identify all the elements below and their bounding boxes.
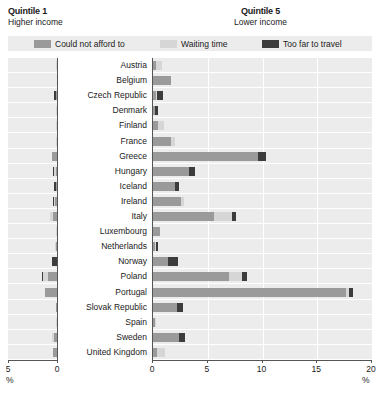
left-axis-line [8, 360, 57, 361]
bar-segment-could-not-afford [56, 91, 57, 100]
bar-segment-too-far [179, 333, 184, 342]
quintile1-header: Quintile 1 Higher income [8, 6, 63, 28]
country-label: Netherlands [59, 239, 147, 254]
left-axis-unit: % [6, 375, 14, 386]
bar-segment-could-not-afford [56, 182, 57, 191]
bar-segment-waiting-time [50, 212, 53, 221]
bar-segment-too-far [52, 257, 57, 266]
chart-row [153, 179, 372, 194]
bar-segment-could-not-afford [52, 152, 57, 161]
bar-segment-could-not-afford [56, 167, 57, 176]
bar-segment-too-far [242, 272, 247, 281]
chart-row [153, 103, 372, 118]
country-label: Greece [59, 149, 147, 164]
chart-row [153, 149, 372, 164]
bar-segment-could-not-afford [153, 76, 171, 85]
bar-segment-waiting-time [54, 167, 55, 176]
bar-segment-waiting-time [155, 318, 156, 327]
bar-segment-waiting-time [54, 197, 55, 206]
country-label: Norway [59, 254, 147, 269]
chart-row [153, 345, 372, 360]
right-axis-tick-label: 0 [140, 364, 164, 375]
axis-tick [8, 360, 9, 363]
bar-segment-waiting-time [214, 212, 232, 221]
bar-segment-waiting-time [43, 272, 48, 281]
country-label: France [59, 134, 147, 149]
quintile5-title: Quintile 5 [148, 6, 373, 17]
bar-segment-too-far [232, 212, 236, 221]
bar-segment-could-not-afford [153, 137, 171, 146]
bar-segment-too-far [175, 182, 179, 191]
right-axis-tick-label: 20 [359, 364, 380, 375]
bar-segment-waiting-time [56, 106, 57, 115]
bar-segment-too-far [42, 272, 43, 281]
bar-segment-waiting-time [56, 121, 57, 130]
bar-segment-could-not-afford [153, 212, 214, 221]
chart-row [153, 134, 372, 149]
bar-segment-could-not-afford [48, 272, 57, 281]
bar-segment-waiting-time [229, 272, 242, 281]
chart-row [8, 269, 57, 284]
country-label: Hungary [59, 164, 147, 179]
bar-segment-could-not-afford [153, 152, 258, 161]
chart-row [153, 73, 372, 88]
bar-segment-could-not-afford [53, 348, 57, 357]
chart-row [153, 224, 372, 239]
bar-segment-waiting-time [52, 333, 54, 342]
axis-tick [57, 360, 58, 363]
country-label: Poland [59, 269, 147, 284]
chart-page: Quintile 1 Higher income Quintile 5 Lowe… [0, 0, 380, 401]
bar-segment-too-far [54, 91, 55, 100]
chart-row [153, 194, 372, 209]
left-axis-tick-label: 5 [0, 364, 20, 375]
axis-tick [262, 360, 263, 363]
bar-segment-could-not-afford [153, 167, 189, 176]
bar-segment-too-far [155, 106, 158, 115]
chart-row [8, 254, 57, 269]
country-label: Finland [59, 118, 147, 133]
chart-row [8, 239, 57, 254]
chart-row [8, 118, 57, 133]
country-label: Ireland [59, 194, 147, 209]
bar-segment-waiting-time [56, 137, 57, 146]
bar-segment-too-far [349, 288, 353, 297]
axis-tick [371, 360, 372, 363]
country-label: Denmark [59, 103, 147, 118]
chart-row [8, 179, 57, 194]
country-label: Luxembourg [59, 224, 147, 239]
chart-row [8, 58, 57, 73]
chart-row [153, 239, 372, 254]
bar-segment-could-not-afford [153, 182, 175, 191]
axis-tick [152, 360, 153, 363]
bar-segment-too-far [189, 167, 194, 176]
chart-row [8, 73, 57, 88]
legend-label-too-far: Too far to travel [283, 39, 342, 49]
bar-segment-could-not-afford [54, 333, 57, 342]
chart-row [8, 300, 57, 315]
bar-segment-waiting-time [56, 318, 57, 327]
bar-segment-too-far [157, 91, 162, 100]
bar-segment-too-far [54, 182, 56, 191]
bar-segment-too-far [53, 167, 54, 176]
chart-row [153, 164, 372, 179]
bar-segment-too-far [168, 257, 178, 266]
bar-segment-could-not-afford [53, 212, 57, 221]
bar-segment-too-far [177, 303, 182, 312]
right-axis-tick-label: 5 [195, 364, 219, 375]
chart-row [8, 209, 57, 224]
bar-segment-could-not-afford [153, 303, 177, 312]
left-axis-tick-label: 0 [45, 364, 69, 375]
bar-segment-could-not-afford [153, 257, 168, 266]
bar-segment-could-not-afford [56, 303, 57, 312]
bar-segment-could-not-afford [45, 288, 57, 297]
bar-segment-waiting-time [56, 61, 57, 70]
right-axis-unit: % [362, 375, 370, 386]
country-label: Austria [59, 58, 147, 73]
chart-row [8, 345, 57, 360]
chart-row [153, 330, 372, 345]
bar-segment-could-not-afford [153, 227, 160, 236]
chart-row [153, 285, 372, 300]
country-label: Belgium [59, 73, 147, 88]
chart-row [8, 164, 57, 179]
country-label: United Kingdom [59, 345, 147, 360]
